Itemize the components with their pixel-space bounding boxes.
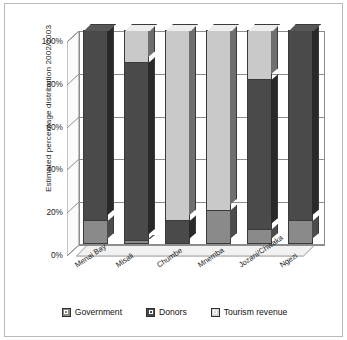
gridline-depth	[67, 31, 80, 43]
bar-segment[interactable]	[206, 30, 231, 210]
bar-segment[interactable]	[247, 79, 272, 229]
y-tick-label: 20%	[29, 208, 63, 217]
legend-label: Tourism revenue	[224, 307, 288, 317]
legend-swatch-icon	[146, 308, 155, 317]
gridline-depth	[67, 159, 80, 171]
y-tick-label: 80%	[29, 80, 63, 89]
bar-segment[interactable]	[83, 220, 108, 244]
y-axis-tick-labels: 100%80%60%40%20%0%	[23, 31, 63, 261]
legend-item[interactable]: Donors	[146, 307, 187, 317]
bar-segment-side	[189, 25, 196, 215]
y-tick-label: 60%	[29, 123, 63, 132]
bar-segment[interactable]	[165, 220, 190, 244]
bar-segment-side	[271, 25, 278, 74]
chart-container: Estimated percentage distribution 2002/2…	[4, 3, 343, 337]
bar-segment-side	[271, 74, 278, 224]
bar-column[interactable]	[288, 30, 313, 244]
plot-left-wall	[67, 31, 80, 256]
bar-segment[interactable]	[83, 30, 108, 220]
plot-area	[67, 31, 325, 256]
bar-column[interactable]	[124, 30, 149, 244]
bar-column[interactable]	[165, 30, 190, 244]
y-tick-label: 0%	[29, 251, 63, 260]
bar-segment-side	[312, 25, 319, 215]
chart-legend: GovernmentDonorsTourism revenue	[5, 307, 344, 317]
bar-segment[interactable]	[288, 220, 313, 244]
y-tick-label: 100%	[29, 37, 63, 46]
bar-segment[interactable]	[247, 30, 272, 79]
bar-segment-side	[230, 205, 237, 239]
bar-segment[interactable]	[124, 30, 149, 62]
bar-segment[interactable]	[124, 62, 149, 240]
bar-column[interactable]	[247, 30, 272, 244]
bar-segment[interactable]	[124, 240, 149, 244]
gridline-depth	[67, 202, 80, 214]
bar-segment-side	[107, 25, 114, 215]
gridline-depth	[67, 117, 80, 129]
bar-column[interactable]	[83, 30, 108, 244]
legend-item[interactable]: Tourism revenue	[211, 307, 288, 317]
y-tick-label: 40%	[29, 165, 63, 174]
bar-segment[interactable]	[288, 30, 313, 220]
legend-swatch-icon	[211, 308, 220, 317]
gridline-depth	[67, 74, 80, 86]
bar-segment-side	[148, 57, 155, 235]
bar-segment[interactable]	[165, 30, 190, 220]
gridline	[79, 245, 325, 246]
bar-segment-side	[230, 25, 237, 205]
legend-swatch-icon	[62, 308, 71, 317]
legend-label: Donors	[159, 307, 187, 317]
legend-item[interactable]: Government	[62, 307, 122, 317]
bar-column[interactable]	[206, 30, 231, 244]
legend-label: Government	[75, 307, 122, 317]
bar-segment[interactable]	[206, 210, 231, 244]
gridline-depth	[67, 245, 80, 257]
